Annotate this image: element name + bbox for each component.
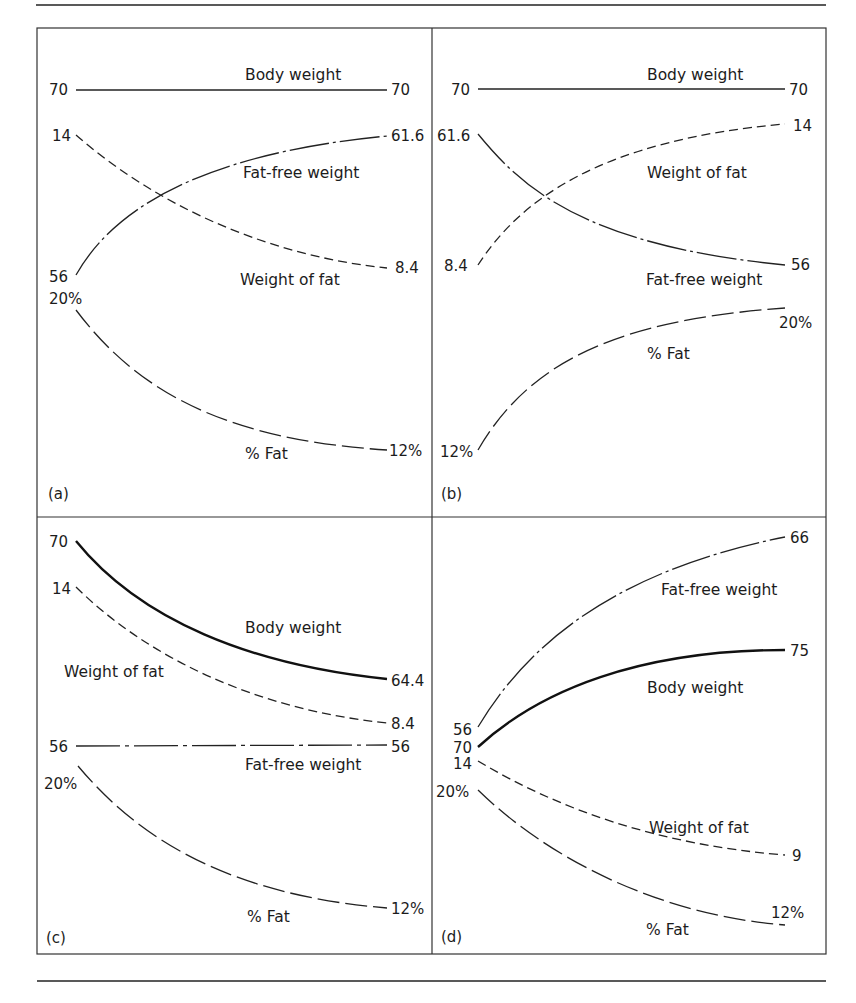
fat-free-weight-line [478, 134, 785, 265]
panel-c: 70 14 Body weight Weight of fat 64.4 8.4… [44, 533, 424, 947]
fat-free-weight-line [76, 136, 387, 275]
body-weight-end-label: 70 [789, 81, 808, 99]
pct-fat-name: % Fat [245, 445, 288, 463]
pct-fat-end-label: 20% [779, 314, 812, 332]
body-weight-line [76, 541, 387, 679]
pct-fat-start-label: 12% [440, 443, 473, 461]
pct-fat-start-label: 20% [44, 775, 77, 793]
weight-of-fat-end-label: 9 [792, 847, 802, 865]
weight-of-fat-name: Weight of fat [240, 271, 340, 289]
panel-tag: (d) [441, 928, 462, 946]
panel-a: 70 70 Body weight 14 61.6 Fat-free weigh… [48, 66, 424, 503]
pct-fat-name: % Fat [646, 921, 689, 939]
body-weight-name: Body weight [245, 66, 341, 84]
fat-free-weight-end-label: 56 [391, 738, 410, 756]
pct-fat-line [76, 310, 387, 450]
fat-free-weight-start-label: 61.6 [437, 127, 470, 145]
pct-fat-line [478, 308, 785, 450]
pct-fat-end-label: 12% [391, 900, 424, 918]
fat-free-weight-line [478, 537, 785, 727]
weight-of-fat-start-label: 8.4 [444, 257, 468, 275]
fat-free-weight-name: Fat-free weight [661, 581, 777, 599]
pct-fat-end-label: 12% [389, 442, 422, 460]
weight-of-fat-end-label: 14 [793, 117, 812, 135]
body-weight-line [478, 650, 785, 747]
body-weight-start-label: 70 [49, 533, 68, 551]
fat-free-weight-name: Fat-free weight [243, 164, 359, 182]
body-weight-start-label: 70 [49, 81, 68, 99]
fat-free-weight-start-label: 56 [453, 721, 472, 739]
weight-of-fat-line [76, 135, 387, 268]
fat-free-weight-end-label: 66 [790, 529, 809, 547]
weight-of-fat-line [76, 587, 387, 723]
weight-of-fat-start-label: 14 [453, 755, 472, 773]
panel-tag: (c) [46, 929, 66, 947]
weight-of-fat-name: Weight of fat [649, 819, 749, 837]
pct-fat-line [478, 790, 785, 925]
fat-free-weight-start-label: 56 [49, 268, 68, 286]
pct-fat-name: % Fat [647, 345, 690, 363]
pct-fat-end-label: 12% [771, 904, 804, 922]
body-weight-name: Body weight [647, 679, 743, 697]
weight-of-fat-line [478, 761, 785, 855]
body-weight-end-label: 75 [790, 642, 809, 660]
panel-tag: (b) [441, 485, 462, 503]
pct-fat-start-label: 20% [49, 290, 82, 308]
fat-free-weight-end-label: 56 [791, 256, 810, 274]
fat-free-weight-name: Fat-free weight [646, 271, 762, 289]
panel-tag: (a) [48, 485, 69, 503]
body-weight-end-label: 64.4 [391, 672, 424, 690]
pct-fat-start-label: 20% [436, 783, 469, 801]
body-weight-start-label: 70 [451, 81, 470, 99]
weight-of-fat-end-label: 8.4 [395, 259, 419, 277]
weight-of-fat-start-label: 14 [52, 580, 71, 598]
fat-free-weight-line [76, 745, 387, 746]
pct-fat-name: % Fat [247, 908, 290, 926]
body-weight-name: Body weight [647, 66, 743, 84]
panel-b: 70 70 Body weight 61.6 14 Weight of fat … [437, 66, 812, 503]
pct-fat-line [78, 766, 387, 908]
panel-d: 66 Fat-free weight 75 Body weight 56 70 … [436, 529, 809, 946]
weight-of-fat-start-label: 14 [52, 127, 71, 145]
fat-free-weight-end-label: 61.6 [391, 127, 424, 145]
fat-free-weight-name: Fat-free weight [245, 756, 361, 774]
figure-svg: 70 70 Body weight 14 61.6 Fat-free weigh… [0, 0, 856, 1003]
weight-of-fat-end-label: 8.4 [391, 715, 415, 733]
weight-of-fat-name: Weight of fat [64, 663, 164, 681]
weight-of-fat-name: Weight of fat [647, 164, 747, 182]
body-weight-name: Body weight [245, 619, 341, 637]
figure: 70 70 Body weight 14 61.6 Fat-free weigh… [0, 0, 856, 1003]
fat-free-weight-start-label: 56 [49, 738, 68, 756]
weight-of-fat-line [478, 124, 785, 265]
body-weight-end-label: 70 [391, 81, 410, 99]
